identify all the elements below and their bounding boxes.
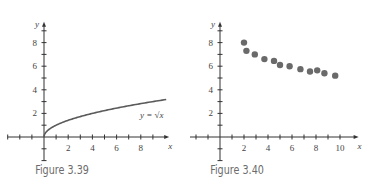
axis-labels: 24682468xyy = √x [33, 19, 173, 153]
y-tick-label: 8 [33, 38, 38, 48]
curve-label: y = √x [139, 110, 164, 120]
figure-3-39: 24682468xyy = √x Figure 3.39 [0, 0, 185, 192]
x-axis-arrow-icon [354, 135, 359, 139]
data-point [314, 67, 320, 73]
y-axis-arrow-icon [42, 22, 46, 27]
x-tick-label: 6 [114, 143, 119, 153]
data-point [271, 58, 277, 64]
y-axis-label: y [34, 19, 39, 29]
data-point [332, 72, 338, 78]
y-axis-arrow-icon [218, 22, 222, 27]
x-axis-label: x [357, 141, 362, 151]
x-tick-label: 4 [90, 143, 95, 153]
data-point [277, 62, 283, 68]
data-point [286, 63, 292, 69]
data-point [252, 51, 258, 57]
figure-3-40: 2468102468xy Figure 3.40 [185, 0, 370, 192]
y-axis-label: y [210, 19, 215, 29]
data-point [241, 39, 247, 45]
y-tick-label: 4 [209, 85, 214, 95]
y-tick-label: 2 [33, 108, 38, 118]
x-axis-label: x [167, 141, 172, 151]
x-tick-label: 8 [314, 143, 319, 153]
data-point [307, 68, 313, 74]
y-tick-label: 6 [209, 61, 214, 71]
x-tick-label: 8 [139, 143, 144, 153]
y-tick-label: 4 [33, 85, 38, 95]
figure-caption: Figure 3.39 [14, 163, 110, 177]
x-axis-arrow-icon [164, 135, 169, 139]
y-tick-label: 2 [209, 108, 214, 118]
chart-axes [190, 22, 359, 161]
x-tick-label: 6 [290, 143, 295, 153]
x-tick-label: 10 [336, 143, 346, 153]
data-point [321, 70, 327, 76]
x-tick-label: 2 [242, 143, 247, 153]
x-tick-label: 4 [266, 143, 271, 153]
data-point [261, 56, 267, 62]
y-tick-label: 6 [33, 61, 38, 71]
scatter-points [241, 39, 339, 78]
axis-labels: 2468102468xy [209, 19, 362, 153]
figure-caption: Figure 3.40 [189, 163, 285, 177]
data-point [297, 66, 303, 72]
data-point [243, 48, 249, 54]
y-tick-label: 8 [209, 38, 214, 48]
x-tick-label: 2 [66, 143, 71, 153]
